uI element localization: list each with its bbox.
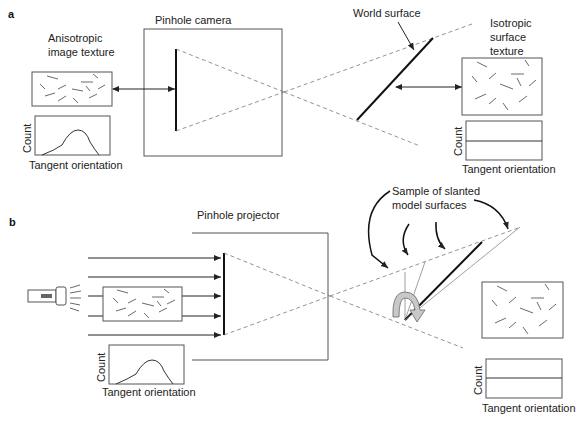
panel-a-left-hist-xlabel: Tangent orientation <box>29 159 123 171</box>
panel-b-right-hist-xlabel: Tangent orientation <box>482 402 576 414</box>
panel-b-left-hist-ylabel: Count <box>95 353 107 382</box>
world-surface-label: World surface <box>353 7 421 19</box>
world-surface-pointer <box>398 22 414 50</box>
slide-texture-box <box>103 287 182 321</box>
camera-rays <box>176 24 472 146</box>
surface-texture-strokes <box>472 60 536 110</box>
panel-b-left-hist-curve <box>116 360 173 384</box>
flashlight-icon <box>28 285 81 311</box>
camera-title: Pinhole camera <box>155 14 232 26</box>
surface-texture-label-2: surface <box>490 31 526 43</box>
model-surfaces <box>405 227 520 320</box>
panel-a-left-hist-curve <box>42 130 99 155</box>
panel-b-left-hist-xlabel: Tangent orientation <box>102 386 196 398</box>
samples-label-2: model surfaces <box>392 199 467 211</box>
image-texture-strokes <box>40 74 105 103</box>
world-surface <box>357 38 433 120</box>
camera-box <box>144 29 282 156</box>
slide-texture-strokes <box>113 289 175 318</box>
surface-texture-box <box>462 58 542 115</box>
projector-title: Pinhole projector <box>197 209 280 221</box>
panel-b-right-hist-ylabel: Count <box>472 366 484 395</box>
panel-a-left-hist-box <box>35 116 110 155</box>
panel-b-surface-texture-box <box>482 282 563 338</box>
surface-texture-label-3: texture <box>490 45 524 57</box>
surface-texture-label-1: Isotropic <box>490 17 532 29</box>
panel-b-surface-texture-strokes <box>492 284 556 334</box>
projector-rays <box>224 228 518 348</box>
panel-a-right-hist-xlabel: Tangent orientation <box>462 163 556 175</box>
image-texture-label-2: image texture <box>48 46 115 58</box>
rotation-arrow-icon <box>393 292 425 322</box>
diagram-canvas: a Pinhole camera Anisotropic image textu… <box>0 0 579 424</box>
samples-label-1: Sample of slanted <box>392 185 480 197</box>
panel-b-label: b <box>9 216 16 228</box>
panel-a-left-hist-ylabel: Count <box>21 124 33 153</box>
light-arrows <box>88 258 221 335</box>
panel-a-label: a <box>8 8 15 20</box>
panel-b-left-hist-box <box>109 345 184 384</box>
image-texture-label-1: Anisotropic <box>48 32 103 44</box>
panel-a-right-hist-ylabel: Count <box>452 127 464 156</box>
